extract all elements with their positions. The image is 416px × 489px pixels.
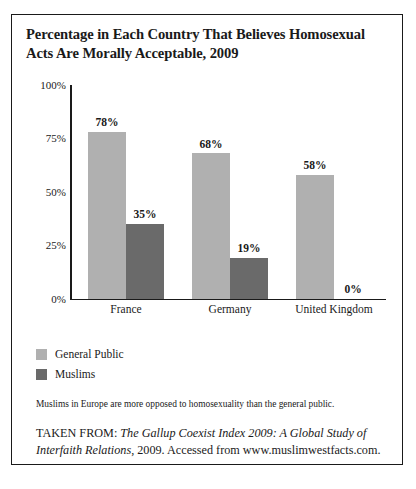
bar-germany-muslims[interactable]: 19%	[230, 258, 268, 299]
bar-chart: 100% 75% 50% 25% 0% 78% 35%	[12, 85, 404, 333]
bar-fill	[230, 258, 268, 299]
bar-value-label: 0%	[344, 284, 361, 296]
category-label-france: France	[82, 304, 170, 316]
bar-fill	[296, 175, 334, 299]
bar-group-germany: 68% 19%	[186, 85, 274, 299]
source-prefix: TAKEN FROM:	[36, 426, 120, 440]
bar-france-general-public[interactable]: 78%	[88, 132, 126, 299]
bar-value-label: 58%	[304, 160, 327, 172]
category-label-germany: Germany	[186, 304, 274, 316]
bar-germany-general-public[interactable]: 68%	[192, 153, 230, 298]
legend-item-muslims: Muslims	[36, 368, 286, 381]
bar-uk-general-public[interactable]: 58%	[296, 175, 334, 299]
bar-france-muslims[interactable]: 35%	[126, 224, 164, 299]
figure-caption: Muslims in Europe are more opposed to ho…	[36, 398, 384, 410]
y-tick-label-75: 75%	[12, 133, 66, 144]
bar-value-label: 35%	[134, 209, 157, 221]
bar-group-united-kingdom: 58% 0%	[290, 85, 378, 299]
chart-title: Percentage in Each Country That Believes…	[26, 25, 378, 64]
y-axis-line	[70, 85, 72, 300]
source-attribution: TAKEN FROM: The Gallup Coexist Index 200…	[36, 425, 388, 459]
bar-fill	[192, 153, 230, 298]
bar-fill	[88, 132, 126, 299]
legend-label: General Public	[55, 349, 124, 361]
y-axis: 100% 75% 50% 25% 0%	[12, 85, 66, 300]
legend-item-general-public: General Public	[36, 348, 286, 361]
figure-frame: Percentage in Each Country That Believes…	[11, 14, 403, 465]
x-axis-line	[70, 299, 386, 301]
source-suffix: , 2009. Accessed from www.muslimwestfact…	[131, 443, 380, 457]
legend: General Public Muslims	[36, 348, 286, 388]
plot-area: 78% 35% 68% 19%	[70, 85, 386, 300]
y-tick-label-0: 0%	[12, 293, 66, 304]
bar-fill	[126, 224, 164, 299]
legend-swatch-icon	[36, 349, 47, 360]
y-tick-label-50: 50%	[12, 186, 66, 197]
y-tick-label-100: 100%	[12, 80, 66, 91]
bar-value-label: 78%	[96, 117, 119, 129]
category-label-united-kingdom: United Kingdom	[280, 304, 388, 316]
y-tick-label-25: 25%	[12, 240, 66, 251]
bar-value-label: 19%	[238, 243, 261, 255]
bar-group-france: 78% 35%	[82, 85, 170, 299]
legend-label: Muslims	[55, 369, 95, 381]
bar-value-label: 68%	[200, 139, 223, 151]
legend-swatch-icon	[36, 369, 47, 380]
